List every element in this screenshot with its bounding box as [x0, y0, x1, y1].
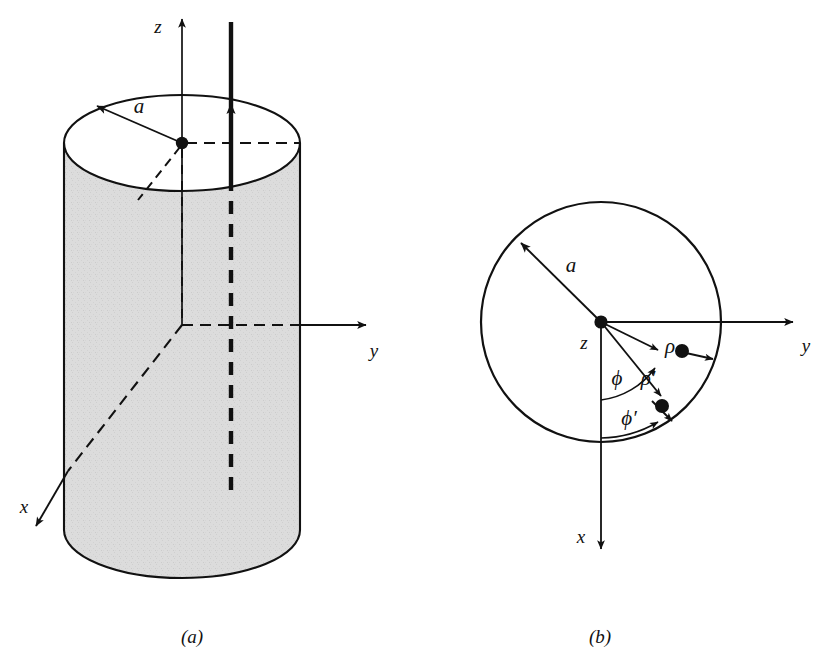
- panel-b-y-axis-label: y: [800, 335, 811, 356]
- phi-label: ϕ: [612, 366, 623, 390]
- physics-figure-svg: z y x a: [0, 0, 822, 663]
- source-point-marker: [655, 399, 669, 413]
- panel-a-group: z y x a: [19, 16, 379, 578]
- panel-b-caption: (b): [589, 626, 611, 648]
- rho-prime-label: ρ′: [640, 366, 656, 390]
- rho-label: ρ: [664, 334, 675, 358]
- cylinder-axis-point: [176, 137, 188, 149]
- panel-a-caption: (a): [181, 626, 203, 648]
- panel-b-z-axis-label: z: [579, 332, 588, 353]
- field-point-marker: [675, 344, 689, 358]
- panel-b-x-axis-label: x: [576, 526, 586, 547]
- panel-a-x-axis-label: x: [19, 496, 29, 517]
- panel-b-group: z y x a ρ ρ′ ϕ ϕ′: [481, 202, 811, 549]
- panel-a-y-axis-label: y: [368, 340, 379, 361]
- panel-b-radius-label: a: [566, 253, 577, 277]
- panel-a-radius-label: a: [134, 94, 145, 118]
- phi-prime-label: ϕ′: [621, 406, 637, 430]
- panel-a-z-axis-label: z: [153, 16, 162, 37]
- figure-root: z y x a: [0, 0, 822, 663]
- panel-b-origin-point: [594, 315, 607, 328]
